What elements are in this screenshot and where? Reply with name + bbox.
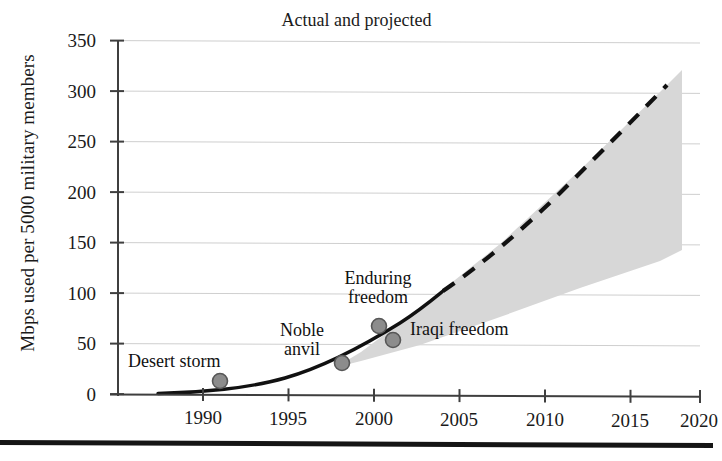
annotation-noble-anvil: Noble anvil [264,321,340,359]
x-tick-label-1995: 1995 [258,409,318,428]
annotation-enduring-freedom: Enduring freedom [333,269,423,307]
chart-title: Actual and projected [0,10,713,31]
y-tick-label-350: 350 [42,31,96,50]
projection-uncertainty-band [341,70,682,366]
x-tick-label-2000: 2000 [344,409,404,428]
y-tick-label-150: 150 [42,233,96,252]
y-tick-label-100: 100 [42,284,96,303]
y-tick-label-0: 0 [42,385,96,404]
x-tick-label-2010: 2010 [515,410,575,429]
y-tick-label-250: 250 [42,132,96,151]
x-tick-label-2020: 2020 [669,411,722,430]
y-tick-label-50: 50 [42,334,96,353]
annotation-desert-storm: Desert storm [128,352,220,371]
y-tick-label-300: 300 [42,82,96,101]
x-tick-label-2005: 2005 [429,410,489,429]
x-tick-label-1990: 1990 [173,408,233,427]
y-tick-label-200: 200 [42,183,96,202]
marker-enduring-freedom [372,319,387,334]
marker-desert-storm [213,374,228,389]
x-tick-label-2015: 2015 [600,411,660,430]
marker-iraqi-freedom [386,333,401,348]
y-axis-title: Mbps used per 5000 military members [17,38,39,368]
annotation-iraqi-freedom: Iraqi freedom [410,320,508,339]
